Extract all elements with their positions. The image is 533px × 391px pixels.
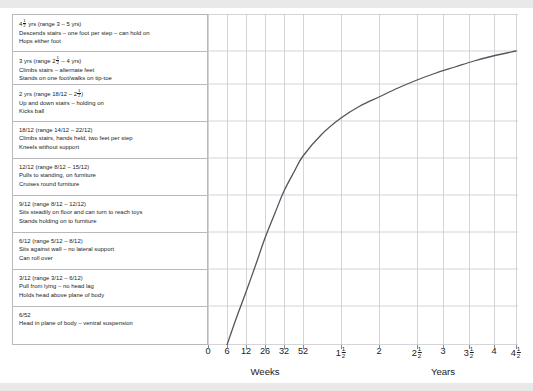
grid-horizontal-lines [208,15,518,345]
bottom-decorative-band [0,383,533,391]
milestone-age-label: 3/12 (range 3/12 – 6/12) [19,274,202,282]
milestone-description-line: Up and down stairs – holding on [19,99,202,107]
milestone-age-label: 18/12 (range 14/12 – 22/12) [19,126,202,134]
milestone-description-line: Holds head above plane of body [19,291,202,299]
milestone-row: 6/52Head in plane of body – ventral susp… [13,307,207,346]
milestone-age-label: 3 yrs (range 212 – 4 yrs) [19,56,202,66]
milestone-row: 6/12 (range 5/12 – 8/12)Sits against wal… [13,233,207,270]
top-decorative-band [0,0,533,8]
fraction-glyph: 12 [23,19,26,29]
chart-plot-area [208,14,518,345]
milestone-age-label: 12/12 (range 8/12 – 15/12) [19,163,202,171]
milestone-row: 9/12 (range 8/12 – 12/12)Sits steadily o… [13,196,207,233]
development-curve-chart [208,14,518,345]
milestones-figure: 412 yrs (range 3 – 5 yrs)Descends stairs… [0,8,533,383]
milestone-description-line: Can roll over [19,254,202,262]
milestone-list-panel: 412 yrs (range 3 – 5 yrs)Descends stairs… [12,14,208,345]
milestone-description-line: Descends stairs – one foot per step – ca… [19,29,202,37]
milestone-age-label: 9/12 (range 8/12 – 12/12) [19,200,202,208]
milestone-description-line: Hops either foot [19,37,202,45]
fraction-glyph: 12 [56,56,59,66]
milestone-age-label: 412 yrs (range 3 – 5 yrs) [19,19,202,29]
milestone-row: 3/12 (range 3/12 – 6/12)Pull from lying … [13,270,207,307]
milestone-row: 12/12 (range 8/12 – 15/12)Pulls to stand… [13,159,207,196]
milestone-description-line: Cruises round furniture [19,180,202,188]
milestone-row: 2 yrs (range 18/12 – 212)Up and down sta… [13,85,207,122]
milestone-description-line: Pulls to standing, on furniture [19,171,202,179]
x-axis-caption-years: Years [431,366,455,377]
milestone-description-line: Pull from lying – no head lag [19,282,202,290]
milestone-description-line: Climbs stairs – alternate feet [19,66,202,74]
milestone-description-line: Climbs stairs, hands held, two feet per … [19,134,202,142]
milestone-row: 18/12 (range 14/12 – 22/12)Climbs stairs… [13,122,207,159]
fraction-glyph: 12 [77,89,80,99]
milestone-description-line: Stands on one foot/walks on tip-toe [19,74,202,82]
milestone-description-line: Head in plane of body – ventral suspensi… [19,319,202,327]
milestone-age-label: 2 yrs (range 18/12 – 212) [19,89,202,99]
x-axis-caption-weeks: Weeks [250,366,279,377]
grid-vertical-lines [209,14,517,345]
milestone-description-line: Kneels without support [19,143,202,151]
milestone-age-label: 6/52 [19,311,202,319]
milestone-description-line: Sits steadily on floor and can turn to r… [19,208,202,216]
milestone-description-line: Stands holding on to furniture [19,217,202,225]
milestone-age-label: 6/12 (range 5/12 – 8/12) [19,237,202,245]
x-axis-tick-marks [208,345,518,351]
milestone-description-line: Kicks ball [19,107,202,115]
milestone-row: 412 yrs (range 3 – 5 yrs)Descends stairs… [13,15,207,52]
milestone-description-line: Sits against wall – no lateral support [19,245,202,253]
development-curve-line [227,51,516,345]
milestone-row: 3 yrs (range 212 – 4 yrs)Climbs stairs –… [13,52,207,85]
